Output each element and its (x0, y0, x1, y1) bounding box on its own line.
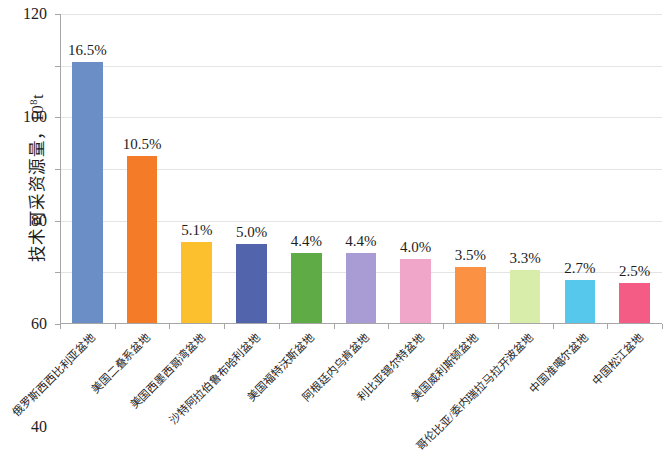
x-category-label: 沙特阿拉伯鲁布哈利盆地 (39, 329, 262, 472)
x-tick-mark (60, 324, 61, 329)
y-tick-mark: 120 (55, 14, 60, 15)
plot-area: 020406080100120 16.5%10.5%5.1%5.0%4.4%4.… (60, 14, 662, 324)
bar-value-label: 3.3% (510, 250, 541, 267)
x-tick-mark (169, 324, 170, 329)
y-axis-title-exponent: 8 (28, 99, 39, 105)
x-tick-mark (662, 324, 663, 329)
y-tick-label: 40 (31, 418, 47, 436)
bar[interactable]: 3.3% (510, 270, 541, 323)
bar-value-label: 5.1% (181, 222, 212, 239)
y-axis-title: 技术可采资源量，108t (24, 38, 48, 318)
y-tick-label: 120 (23, 5, 47, 23)
bar[interactable]: 2.7% (565, 280, 596, 323)
x-tick-mark (115, 324, 116, 329)
y-tick-label: 80 (31, 212, 47, 230)
x-tick-mark (607, 324, 608, 329)
bar[interactable]: 4.4% (346, 253, 377, 323)
x-category-label: 利比亚锡尔特盆地 (204, 329, 427, 472)
y-tick-mark: 80 (55, 117, 60, 118)
gridline (61, 117, 662, 118)
bar[interactable]: 4.4% (291, 253, 322, 323)
x-tick-mark (279, 324, 280, 329)
gridline (61, 14, 662, 15)
gridline (61, 66, 662, 67)
x-category-label: 美国西墨西哥湾盆地 (0, 329, 208, 472)
bar[interactable]: 2.5% (619, 283, 650, 323)
y-tick-mark: 40 (55, 221, 60, 222)
x-tick-mark (388, 324, 389, 329)
bar-value-label: 4.0% (400, 239, 431, 256)
x-category-label: 阿根廷内乌肯盆地 (149, 329, 372, 472)
y-tick-mark: 20 (55, 272, 60, 273)
bar[interactable]: 4.0% (400, 259, 431, 323)
y-tick-mark: 100 (55, 66, 60, 67)
bar[interactable]: 16.5% (72, 62, 103, 323)
x-category-label: 中国准噶尔盆地 (368, 329, 591, 472)
bar-value-label: 10.5% (123, 136, 162, 153)
x-tick-mark (498, 324, 499, 329)
bar-value-label: 16.5% (68, 42, 107, 59)
y-tick-label: 100 (23, 108, 47, 126)
x-category-label: 中国松江盆地 (422, 329, 645, 472)
bar-value-label: 3.5% (455, 247, 486, 264)
bar-chart: 技术可采资源量，108t 020406080100120 16.5%10.5%5… (0, 0, 670, 472)
bar[interactable]: 5.1% (181, 242, 212, 323)
x-category-label: 美国威利斯顿盆地 (258, 329, 481, 472)
y-axis-title-text: 技术可采资源量，10 (28, 105, 47, 263)
bar-value-label: 5.0% (236, 224, 267, 241)
x-axis-line (60, 323, 662, 324)
bar-value-label: 2.5% (619, 263, 650, 280)
x-tick-mark (553, 324, 554, 329)
y-tick-label: 60 (31, 315, 47, 333)
x-category-label: 哥伦比亚/委内瑞拉马拉开波盆地 (313, 329, 536, 472)
bar[interactable]: 3.5% (455, 267, 486, 323)
bar[interactable]: 10.5% (127, 156, 158, 323)
x-category-label: 美国福特沃斯盆地 (94, 329, 317, 472)
x-category-label: 俄罗斯西西比利亚盆地 (0, 329, 99, 472)
x-tick-mark (443, 324, 444, 329)
y-tick-mark: 60 (55, 169, 60, 170)
bar-value-label: 4.4% (345, 233, 376, 250)
x-tick-mark (334, 324, 335, 329)
bar-value-label: 2.7% (564, 260, 595, 277)
bar[interactable]: 5.0% (236, 244, 267, 323)
x-category-label: 美国二叠系盆地 (0, 329, 153, 472)
y-axis-title-unit: t (28, 94, 47, 99)
bar-value-label: 4.4% (291, 233, 322, 250)
x-tick-mark (224, 324, 225, 329)
